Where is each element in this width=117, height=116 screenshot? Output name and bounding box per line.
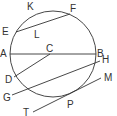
label-g: G [3,92,11,103]
circle-diagram: K F E L A C B H D G M P T [0,0,117,116]
secant-gh [12,61,100,95]
label-t: T [23,107,29,116]
label-l: L [34,29,40,40]
label-h: H [102,54,109,65]
label-a: A [0,48,7,59]
label-p: P [67,99,74,110]
label-f: F [70,3,76,14]
label-e: E [2,26,9,37]
label-d: D [5,74,12,85]
label-m: M [104,72,112,83]
label-c: C [46,43,53,54]
label-k: K [27,1,34,12]
radius-cd [14,54,50,77]
chord-ef [16,14,70,32]
